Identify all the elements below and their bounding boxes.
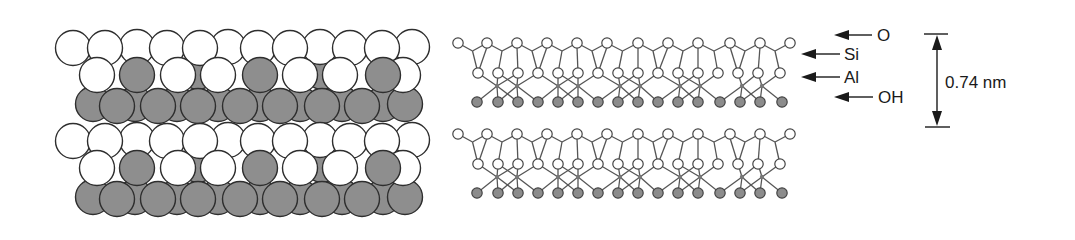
space-filling-model — [56, 30, 430, 217]
arrow-down-icon — [932, 111, 942, 126]
aluminum-atom — [515, 84, 519, 88]
label-o-text: O — [877, 26, 890, 45]
oxygen-atom — [693, 159, 703, 169]
oxygen-atom — [513, 68, 523, 78]
cation-sphere — [100, 89, 135, 124]
cation-sphere — [345, 182, 380, 217]
oxygen-atom — [755, 129, 765, 139]
aluminum-atom — [678, 84, 682, 88]
hydroxyl-atom — [573, 97, 583, 107]
cation-sphere — [141, 89, 176, 124]
hydroxyl-atom — [533, 188, 543, 198]
oxygen-atom — [653, 68, 663, 78]
oxygen-atom — [693, 38, 703, 48]
label-al-text: Al — [844, 68, 859, 87]
oxygen-atom — [755, 38, 765, 48]
cation-sphere — [345, 89, 380, 124]
oxygen-sphere — [161, 58, 196, 93]
label-si: Si — [801, 45, 859, 64]
oxygen-atom — [613, 159, 623, 169]
aluminum-atom — [495, 84, 499, 88]
aluminum-atom — [698, 84, 702, 88]
cation-sphere — [181, 89, 216, 124]
oxygen-atom — [473, 159, 483, 169]
oxygen-sphere — [161, 151, 196, 186]
oxygen-atom — [633, 38, 643, 48]
arrow-up-icon — [932, 35, 942, 50]
hydroxyl-atom — [633, 97, 643, 107]
oxygen-atom — [673, 159, 683, 169]
oxygen-sphere — [56, 31, 91, 66]
hydroxyl-atom — [472, 97, 482, 107]
aluminum-atom — [515, 175, 519, 179]
oxygen-sphere — [56, 124, 91, 159]
hydroxyl-atom — [755, 188, 765, 198]
aluminum-atom — [638, 175, 642, 179]
oxygen-atom — [453, 129, 463, 139]
aluminum-atom — [760, 84, 764, 88]
aluminum-atom — [698, 175, 702, 179]
oxygen-atom — [533, 159, 543, 169]
aluminum-atom — [556, 175, 560, 179]
clay-layer-sphere — [56, 123, 430, 217]
hydroxyl-atom — [613, 97, 623, 107]
oxygen-sphere — [201, 151, 236, 186]
oxygen-atom — [753, 68, 763, 78]
cation-sphere — [120, 151, 155, 186]
oxygen-atom — [733, 159, 743, 169]
label-si-text: Si — [844, 45, 859, 64]
cation-sphere — [366, 58, 401, 93]
oxygen-atom — [482, 129, 492, 139]
aluminum-atom — [740, 175, 744, 179]
hydroxyl-atom — [513, 188, 523, 198]
hydroxyl-atom — [777, 188, 787, 198]
aluminum-atom — [638, 84, 642, 88]
oxygen-sphere — [283, 58, 318, 93]
cation-sphere — [263, 182, 298, 217]
oxygen-atom — [493, 68, 503, 78]
hydroxyl-atom — [735, 188, 745, 198]
oxygen-atom — [602, 38, 612, 48]
oxygen-atom — [453, 38, 463, 48]
aluminum-atom — [678, 175, 682, 179]
arrow-left-icon — [834, 92, 849, 102]
oxygen-atom — [542, 38, 552, 48]
oxygen-atom — [663, 38, 673, 48]
oxygen-atom — [533, 68, 543, 78]
arrow-left-icon — [801, 49, 816, 59]
hydroxyl-atom — [715, 188, 725, 198]
hydroxyl-atom — [693, 188, 703, 198]
oxygen-atom — [572, 129, 582, 139]
label-oh: OH — [834, 88, 904, 107]
cation-sphere — [120, 58, 155, 93]
oxygen-atom — [613, 68, 623, 78]
oxygen-atom — [593, 68, 603, 78]
hydroxyl-atom — [755, 97, 765, 107]
oxygen-atom — [775, 68, 785, 78]
hydroxyl-atom — [735, 97, 745, 107]
arrow-left-icon — [834, 30, 849, 40]
cation-sphere — [305, 182, 340, 217]
ball-and-stick-model — [453, 38, 795, 198]
hydroxyl-atom — [653, 97, 663, 107]
hydroxyl-atom — [673, 97, 683, 107]
hydroxyl-atom — [573, 188, 583, 198]
oxygen-sphere — [80, 58, 115, 93]
hydroxyl-atom — [553, 188, 563, 198]
aluminum-atom — [576, 175, 580, 179]
oxygen-atom — [633, 68, 643, 78]
oxygen-sphere — [201, 58, 236, 93]
oxygen-atom — [512, 38, 522, 48]
cation-sphere — [223, 89, 258, 124]
oxygen-atom — [482, 38, 492, 48]
oxygen-atom — [633, 159, 643, 169]
aluminum-atom — [495, 175, 499, 179]
label-o: O — [834, 26, 890, 45]
cation-sphere — [243, 58, 278, 93]
oxygen-atom — [572, 38, 582, 48]
hydroxyl-atom — [653, 188, 663, 198]
hydroxyl-atom — [553, 97, 563, 107]
arrow-left-icon — [801, 72, 816, 82]
hydroxyl-atom — [777, 97, 787, 107]
hydroxyl-atom — [633, 188, 643, 198]
